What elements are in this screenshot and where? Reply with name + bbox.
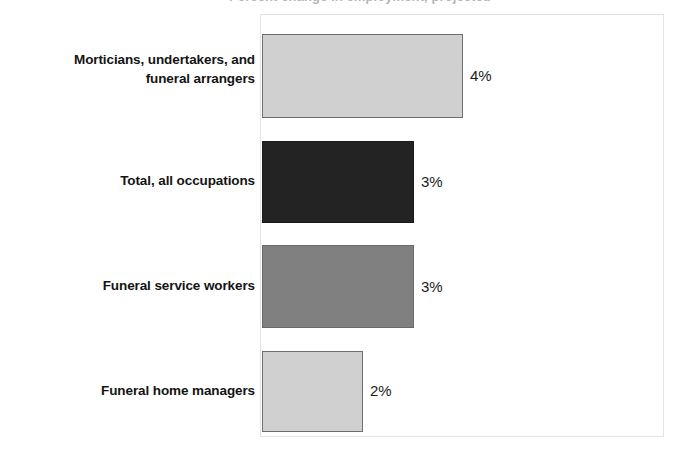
bar-morticians-undertakers-and-funeral-arrangers [262,34,463,118]
category-label-funeral-service-workers: Funeral service workers [0,276,255,295]
category-label-line-1: Funeral home managers [101,383,255,398]
value-label-total-all-occupations: 3% [421,173,443,190]
category-label-funeral-home-managers: Funeral home managers [0,381,255,400]
value-label-funeral-service-workers: 3% [421,278,443,295]
category-axis-labels: Morticians, undertakers, and funeral arr… [0,14,255,437]
category-label-line-1: Funeral service workers [103,278,255,293]
bar-total-all-occupations [262,141,414,223]
chart-title: Percent change in employment, projected [150,0,570,4]
bar-chart: Percent change in employment, projected … [0,0,685,461]
bar-funeral-service-workers [262,245,414,328]
category-label-line-2: funeral arrangers [0,69,255,88]
value-label-funeral-home-managers: 2% [370,382,392,399]
category-label-line-1: Total, all occupations [120,173,255,188]
plot-area [260,14,664,437]
category-label-line-1: Morticians, undertakers, and [74,52,255,67]
category-label-morticians-undertakers-and-funeral-arrangers: Morticians, undertakers, and funeral arr… [0,50,255,88]
bar-funeral-home-managers [262,351,363,432]
value-label-morticians-undertakers-and-funeral-arrangers: 4% [470,67,492,84]
category-label-total-all-occupations: Total, all occupations [0,171,255,190]
